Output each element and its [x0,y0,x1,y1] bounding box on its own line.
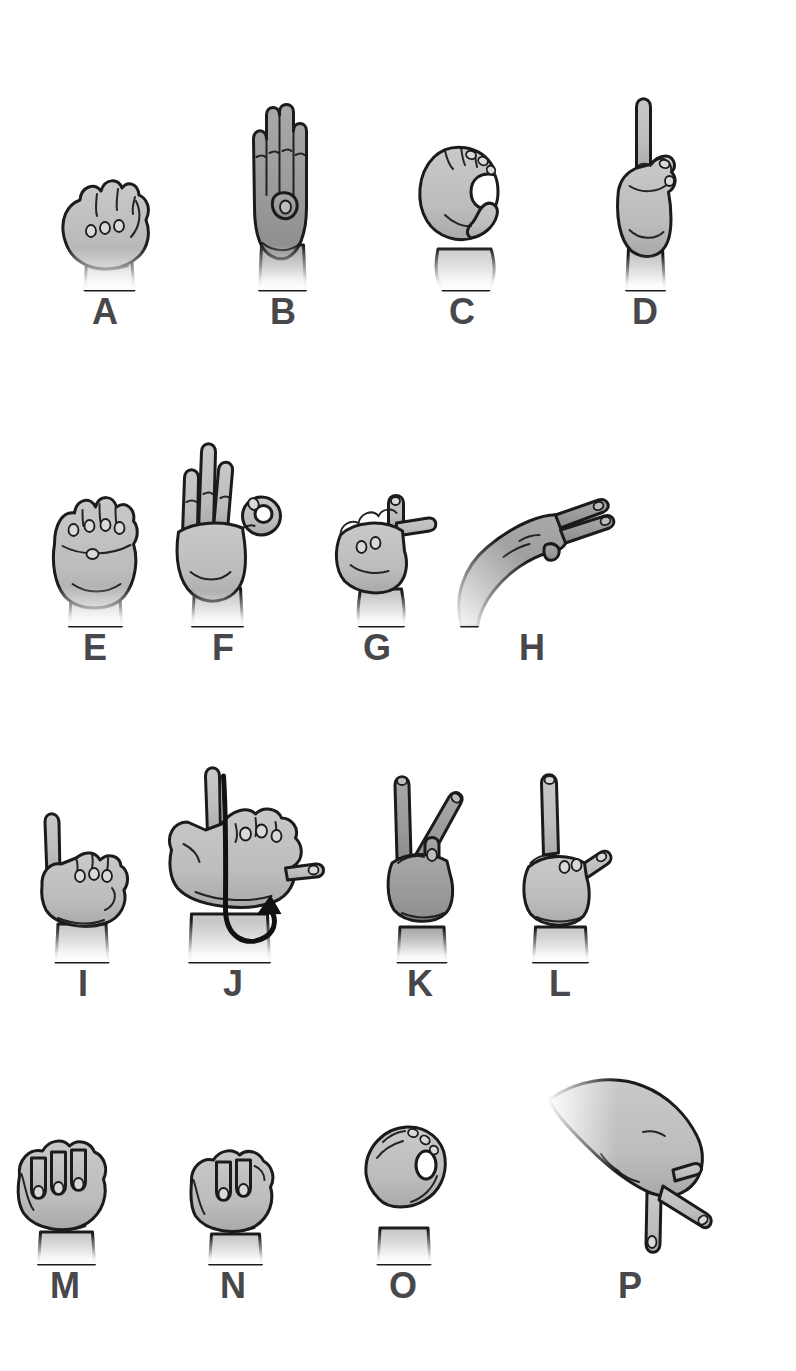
sign-label-j: J [148,962,318,1008]
sign-label-b: B [198,290,368,336]
hand-k-illustration [370,767,470,962]
hand-h-icon [450,471,615,626]
hand-i-icon [28,790,138,962]
sign-cell-o: O [318,1062,488,1310]
hand-p-icon [547,1074,757,1264]
hand-b-icon [241,95,326,290]
sign-label-l: L [475,962,645,1008]
hand-d-illustration [604,90,687,290]
sign-cell-f: F [138,420,308,672]
sign-label-m: M [0,1264,150,1310]
asl-alphabet-chart: A B [0,0,796,1371]
sign-label-n: N [148,1264,318,1310]
hand-k-icon [370,767,470,962]
sign-cell-j: J [148,756,318,1008]
sign-cell-n: N [148,1062,318,1310]
sign-label-i: I [0,962,168,1008]
hand-o-icon [353,1102,453,1264]
sign-cell-c: C [377,84,547,336]
hand-l-illustration [503,767,618,962]
hand-n-icon [181,1122,286,1264]
sign-cell-g: G [292,420,462,672]
sign-cell-d: D [560,84,730,336]
hand-a-icon [50,147,160,290]
hand-j-icon [136,752,351,962]
sign-cell-h: H [447,420,617,672]
hand-j-illustration [136,752,351,962]
sign-label-p: P [545,1264,715,1310]
hand-p-illustration [547,1074,757,1264]
hand-g-illustration [315,461,440,626]
hand-f-icon [161,416,286,626]
hand-i-illustration [28,790,138,962]
hand-l-icon [503,767,618,962]
hand-e-icon [43,466,148,626]
hand-f-illustration [161,416,286,626]
hand-g-icon [315,461,440,626]
sign-label-o: O [318,1264,488,1310]
hand-c-illustration [407,137,517,290]
sign-label-f: F [138,626,308,672]
hand-c-icon [407,137,517,290]
hand-e-illustration [43,466,148,626]
sign-label-c: C [377,290,547,336]
sign-label-d: D [560,290,730,336]
hand-m-icon [8,1114,123,1264]
sign-cell-l: L [475,756,645,1008]
hand-o-illustration [353,1102,453,1264]
hand-m-illustration [8,1114,123,1264]
sign-label-g: G [292,626,462,672]
sign-cell-m: M [0,1062,150,1310]
hand-n-illustration [181,1122,286,1264]
sign-label-a: A [20,290,190,336]
hand-h-illustration [450,471,615,626]
hand-d-icon [604,90,687,290]
sign-cell-b: B [198,84,368,336]
sign-cell-p: P [545,1062,715,1310]
hand-b-illustration [241,95,326,290]
sign-label-h: H [447,626,617,672]
hand-a-illustration [50,147,160,290]
sign-cell-a: A [20,84,190,336]
